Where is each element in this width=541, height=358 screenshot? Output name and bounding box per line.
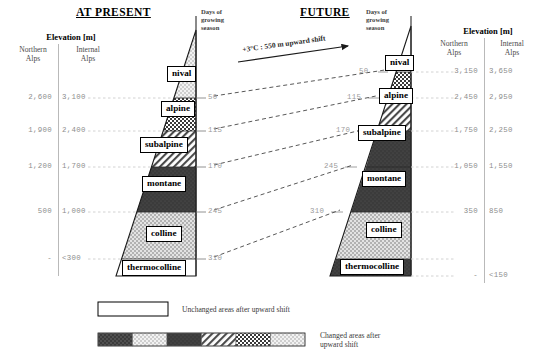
- legend-changed-label-line2: upward shift: [320, 340, 380, 349]
- panel-title-at-present: AT PRESENT: [76, 6, 151, 18]
- left-zone-label-montane: montane: [142, 176, 186, 192]
- legend-changed-label-line1: Changed areas after: [320, 331, 380, 340]
- right-internal-tick-3: 1,550: [489, 162, 537, 170]
- right-zone-label-subalpine: subalpine: [358, 125, 406, 141]
- right-zone-label-alpine: alpine: [379, 88, 413, 104]
- right-internal-tick-5: <150: [489, 271, 537, 279]
- right-zone-label-nival: nival: [385, 55, 414, 71]
- left-axis-divider: [58, 44, 59, 276]
- right-internal-tick-4: 850: [489, 207, 537, 215]
- right-northern-tick-5: -: [428, 271, 478, 279]
- left-gs-tick-1: 115: [208, 126, 222, 134]
- left-internal-tick-1: 2,400: [62, 126, 110, 134]
- left-internal-alps-line2: Alps: [62, 55, 114, 64]
- right-gs-tick-2: 170: [336, 126, 350, 134]
- right-internal-alps-header: Internal Alps: [486, 40, 538, 57]
- right-zone-label-montane: montane: [362, 171, 406, 187]
- left-internal-alps-header: Internal Alps: [62, 46, 114, 63]
- right-gs-tick-1: 115: [347, 93, 361, 101]
- legend-unchanged-label: Unchanged areas after upward shift: [182, 305, 290, 314]
- left-elevation-header: Elevation [m]: [16, 32, 126, 42]
- left-northern-alps-header: Northern Alps: [8, 46, 58, 63]
- right-growing-season-line3: season: [366, 24, 389, 32]
- right-northern-tick-3: 1,050: [428, 162, 478, 170]
- left-growing-season-line1: Days of: [201, 8, 224, 16]
- left-zone-label-thermocolline: thermocolline: [122, 260, 186, 276]
- left-internal-tick-0: 3,100: [62, 93, 110, 101]
- right-gs-tick-3: 245: [324, 162, 338, 170]
- right-internal-tick-0: 3,650: [489, 67, 537, 75]
- right-growing-season-line2: growing: [366, 16, 389, 24]
- right-zone-label-thermocolline: thermocolline: [340, 259, 404, 275]
- left-zone-label-nival: nival: [167, 66, 196, 82]
- left-northern-tick-1: 1,900: [2, 126, 52, 134]
- right-northern-tick-0: 3,150: [428, 67, 478, 75]
- left-zone-label-colline: colline: [146, 226, 182, 242]
- left-gs-tick-0: 50: [208, 93, 217, 101]
- left-gs-tick-2: 170: [208, 162, 222, 170]
- right-internal-tick-1: 2,950: [489, 93, 537, 101]
- left-zone-label-subalpine: subalpine: [140, 137, 188, 153]
- left-zone-label-alpine: alpine: [161, 101, 195, 117]
- right-elevation-header: Elevation [m]: [436, 26, 540, 36]
- left-northern-tick-4: -: [2, 254, 52, 262]
- right-gs-tick-4: 310: [310, 207, 324, 215]
- right-northern-tick-1: 2,450: [428, 93, 478, 101]
- left-northern-tick-3: 500: [2, 207, 52, 215]
- panel-title-future: FUTURE: [300, 6, 350, 18]
- left-growing-season-header: Days of growing season: [201, 8, 224, 31]
- right-internal-tick-2: 2,250: [489, 126, 537, 134]
- left-internal-tick-3: 1,000: [62, 207, 110, 215]
- left-northern-tick-2: 1,200: [2, 162, 52, 170]
- left-northern-tick-0: 2,600: [2, 93, 52, 101]
- legend-changed-label: Changed areas after upward shift: [320, 331, 380, 350]
- right-growing-season-line1: Days of: [366, 8, 389, 16]
- right-northern-alps-line2: Alps: [428, 49, 480, 58]
- right-axis-divider: [484, 38, 485, 283]
- left-growing-season-line2: growing: [201, 16, 224, 24]
- left-northern-alps-line2: Alps: [8, 55, 58, 64]
- left-gs-tick-3: 245: [208, 207, 222, 215]
- right-northern-alps-header: Northern Alps: [428, 40, 480, 57]
- left-gs-tick-4: 310: [208, 254, 222, 262]
- right-zone-label-colline: colline: [366, 222, 402, 238]
- right-gs-tick-0: 50: [359, 67, 368, 75]
- left-internal-tick-2: 1,700: [62, 162, 110, 170]
- left-internal-tick-4: <300: [62, 254, 110, 262]
- right-internal-alps-line2: Alps: [486, 49, 538, 58]
- right-elevation-leaders: [411, 72, 455, 276]
- right-growing-season-header: Days of growing season: [366, 8, 389, 31]
- figure-root: AT PRESENT FUTURE +3°C : 550 m upward sh…: [0, 0, 541, 358]
- legend-unchanged-swatch-group: [98, 302, 168, 316]
- left-growing-season-line3: season: [201, 24, 224, 32]
- right-northern-tick-2: 1,750: [428, 126, 478, 134]
- right-northern-tick-4: 350: [428, 207, 478, 215]
- legend-changed-swatch-group: [98, 333, 305, 346]
